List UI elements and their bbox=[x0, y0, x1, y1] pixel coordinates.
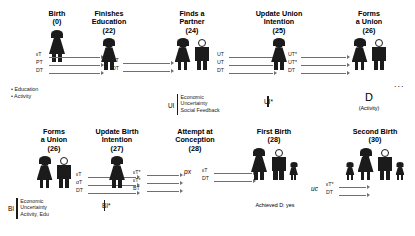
arrow-label: εT bbox=[76, 171, 82, 177]
man-icon bbox=[55, 156, 74, 188]
annotation-birth-intention-updated: BI* bbox=[102, 200, 105, 211]
annotation-key: UI bbox=[168, 102, 174, 109]
man-icon bbox=[376, 148, 395, 180]
arrow-label: PT bbox=[112, 57, 119, 63]
node-forms-a-union-2: Forms a Union (26) bbox=[25, 128, 83, 188]
arrow-label: UT bbox=[217, 51, 224, 57]
node-update-union-intention-age: (25) bbox=[246, 27, 312, 36]
arrow-label: αT bbox=[76, 179, 82, 185]
arrow-row: εT* bbox=[133, 178, 183, 186]
arrow-label: εT bbox=[202, 167, 208, 173]
arrow-label: DT bbox=[326, 189, 333, 195]
arrow-label: εT* bbox=[133, 169, 141, 175]
arrow-label: UT* bbox=[288, 51, 297, 57]
child-icon bbox=[395, 162, 406, 180]
woman-icon bbox=[249, 148, 269, 180]
arrow-label: εT* bbox=[133, 177, 141, 183]
woman-icon bbox=[35, 156, 55, 188]
node-update-union-intention-title: Update Union Intention bbox=[246, 10, 312, 27]
woman-icon bbox=[350, 38, 370, 70]
arrow-label: DT bbox=[76, 187, 83, 193]
node-second-birth-age: (30) bbox=[338, 136, 412, 145]
node-forms-a-union-age: (26) bbox=[340, 27, 398, 36]
arrow-label: εT bbox=[36, 51, 42, 57]
arrow-row: BT bbox=[133, 186, 183, 194]
node-forms-a-union-2-age: (26) bbox=[25, 145, 83, 154]
arrow-label: PT bbox=[36, 59, 43, 65]
man-icon bbox=[269, 148, 288, 180]
fecundability-parameter: px bbox=[184, 168, 191, 175]
node-finds-a-partner-title: Finds a Partner bbox=[163, 10, 221, 27]
arrows-birth-intention-to-conception: εT* εT* BT bbox=[133, 170, 183, 194]
node-forms-a-union-figures bbox=[340, 38, 398, 70]
arrow-label: DT bbox=[202, 175, 209, 181]
arrow-label: DT bbox=[217, 67, 224, 73]
node-attempt-at-conception-age: (28) bbox=[163, 145, 227, 154]
arrow-label: DT bbox=[36, 67, 43, 73]
man-icon bbox=[370, 38, 389, 70]
child-icon bbox=[345, 162, 356, 180]
node-finds-a-partner-figures bbox=[163, 38, 221, 70]
arrow-label: UT* bbox=[288, 59, 297, 65]
woman-icon bbox=[107, 156, 127, 188]
node-forms-a-union-title: Forms a Union bbox=[340, 10, 398, 27]
arrow-label: DT bbox=[288, 67, 295, 73]
woman-icon bbox=[269, 38, 289, 70]
node-birth-age: (0) bbox=[28, 18, 86, 27]
node-first-birth: First Birth (28) bbox=[243, 128, 305, 180]
annotation-key: BI bbox=[8, 205, 14, 212]
arrow-label: DT bbox=[112, 65, 119, 71]
node-finishes-education-title: Finishes Education bbox=[80, 10, 138, 27]
annotation-union-intention-updated: UI* bbox=[264, 96, 269, 107]
arrow-row: DT bbox=[76, 188, 140, 196]
node-update-birth-intention-age: (27) bbox=[84, 145, 150, 154]
node-finds-a-partner-age: (24) bbox=[163, 27, 221, 36]
node-forms-a-union-2-figures bbox=[25, 156, 83, 188]
arrow-label: BT bbox=[133, 185, 140, 191]
arrow-row: DT bbox=[326, 190, 370, 198]
woman-icon bbox=[356, 148, 376, 180]
node-attempt-at-conception-title: Attempt at Conception bbox=[163, 128, 227, 145]
union-dissolution-parameter: uc bbox=[311, 185, 318, 192]
node-finds-a-partner: Finds a Partner (24) bbox=[163, 10, 221, 70]
birth-attributes-list: • Education • Activity bbox=[11, 86, 38, 100]
node-first-birth-age: (28) bbox=[243, 136, 305, 145]
node-second-birth-figures bbox=[338, 148, 412, 180]
annotation-bar bbox=[177, 94, 178, 115]
node-first-birth-figures bbox=[243, 148, 305, 180]
arrow-label: UT bbox=[217, 59, 224, 65]
node-update-birth-intention-title: Update Birth Intention bbox=[84, 128, 150, 145]
node-forms-a-union: Forms a Union (26) bbox=[340, 10, 398, 70]
child-icon bbox=[288, 162, 299, 180]
annotation-birth-intention: BI Economic Uncertainty Activity, Edu bbox=[8, 198, 49, 219]
achieved-desired-status: Achieved D: yes bbox=[240, 202, 310, 208]
diagram-canvas: Birth (0) • Education • Activity εT PT D… bbox=[0, 0, 415, 236]
continuation-ellipsis: ... bbox=[394, 80, 405, 89]
annotation-text: Economic Uncertainty Activity, Edu bbox=[20, 198, 49, 217]
arrow-label: εT* bbox=[326, 181, 334, 187]
annotation-text: Economic Uncertainty Social Feedback bbox=[181, 94, 220, 113]
node-finishes-education-age: (22) bbox=[80, 27, 138, 36]
arrows-first-to-second-birth: εT* DT bbox=[326, 182, 370, 198]
woman-icon bbox=[173, 38, 193, 70]
node-forms-a-union-2-title: Forms a Union bbox=[25, 128, 83, 145]
desired-children-letter: D bbox=[352, 92, 386, 103]
node-attempt-at-conception: Attempt at Conception (28) bbox=[163, 128, 227, 153]
annotation-union-intention: UI Economic Uncertainty Social Feedback bbox=[168, 94, 220, 116]
desired-children-sublabel: (Activity) bbox=[348, 105, 390, 111]
man-icon bbox=[193, 38, 212, 70]
node-second-birth: Second Birth (30) bbox=[338, 128, 412, 180]
